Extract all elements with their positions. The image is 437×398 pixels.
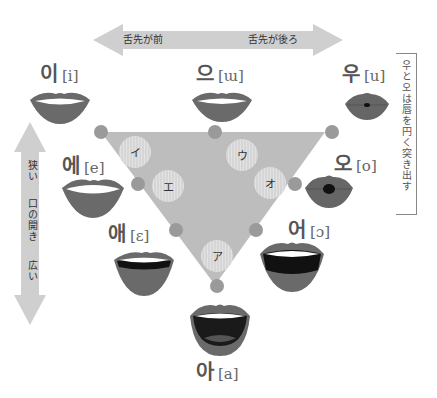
- ipa-i: [i]: [62, 67, 79, 85]
- tongue-front-label: 舌先が前: [123, 31, 163, 46]
- hangul-eu: 으: [196, 58, 214, 87]
- vowel-label-u: 우 [u]: [342, 58, 385, 87]
- ipa-e: [e]: [84, 159, 105, 177]
- kana-e: エ: [163, 178, 174, 194]
- vowel-label-i: 이 [i]: [40, 58, 79, 87]
- hangul-e: 에: [62, 150, 80, 179]
- mouth-eo: [260, 243, 324, 293]
- mouth-u: [345, 93, 389, 120]
- vowel-label-o: 오 [o]: [334, 148, 377, 177]
- kana-a: ア: [212, 248, 223, 264]
- ipa-eo: [ɔ]: [310, 223, 330, 241]
- mouth-a: [190, 305, 250, 357]
- mouth-e: [62, 180, 124, 218]
- mouth-eu: [192, 93, 252, 122]
- vowel-label-e: 에 [e]: [62, 150, 105, 179]
- kana-o: オ: [265, 175, 276, 191]
- wide-label: 広い: [24, 260, 39, 282]
- mouth-ae: [114, 252, 174, 296]
- kana-i: イ: [130, 144, 141, 160]
- mouth-opening-label: 口の開き: [24, 198, 39, 242]
- ipa-ae: [ɛ]: [130, 227, 149, 245]
- hangul-a: 아: [196, 356, 214, 385]
- vowel-label-ae: 애 [ɛ]: [108, 218, 149, 247]
- hangul-o: 오: [334, 148, 352, 177]
- mouth-o: [305, 176, 353, 209]
- narrow-label: 狭い: [24, 160, 39, 182]
- ipa-a: [a]: [218, 365, 239, 383]
- vowel-label-eo: 어 [ɔ]: [288, 214, 330, 243]
- vowel-label-eu: 으 [ɯ]: [196, 58, 244, 87]
- hangul-eo: 어: [288, 214, 306, 243]
- hangul-u: 우: [342, 58, 360, 87]
- ipa-eu: [ɯ]: [218, 67, 244, 85]
- vowel-label-a: 아 [a]: [196, 356, 239, 385]
- mouth-i: [30, 93, 90, 124]
- tongue-back-label: 舌先が後ろ: [248, 31, 298, 46]
- side-note: 우と오は唇を円く突き出す: [398, 60, 413, 192]
- ipa-u: [u]: [364, 67, 385, 85]
- kana-u: ウ: [237, 147, 248, 163]
- hangul-i: 이: [40, 58, 58, 87]
- ipa-o: [o]: [356, 157, 377, 175]
- hangul-ae: 애: [108, 218, 126, 247]
